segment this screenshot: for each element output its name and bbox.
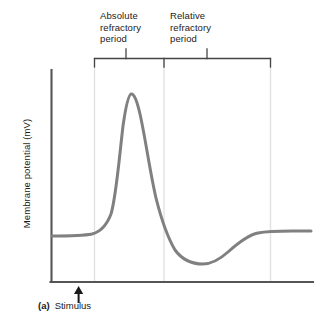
axes bbox=[51, 70, 314, 282]
refractory-period-bracket bbox=[95, 49, 271, 67]
caption-text: Stimulus bbox=[55, 300, 91, 311]
figure-caption: (a)Stimulus bbox=[38, 300, 91, 311]
action-potential-figure: Absolute refractory period Relative refr… bbox=[0, 0, 331, 323]
gridlines bbox=[95, 60, 271, 282]
plot-area bbox=[0, 0, 331, 323]
caption-tag: (a) bbox=[38, 300, 50, 311]
action-potential-curve bbox=[52, 94, 311, 264]
